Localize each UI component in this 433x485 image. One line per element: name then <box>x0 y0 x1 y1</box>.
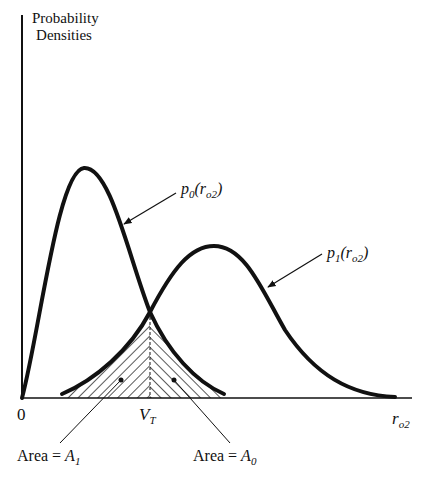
area-a0-sub: 0 <box>251 455 257 467</box>
origin-label: 0 <box>17 406 26 423</box>
p0-arg-close: ) <box>217 180 222 197</box>
p0-arrow <box>124 193 176 224</box>
x-axis-label: ro2 <box>392 410 410 427</box>
y-axis-label-line1: Probability <box>32 10 96 27</box>
p0-label: p0(ro2) <box>181 180 222 197</box>
vt-main: V <box>139 405 149 424</box>
vt-label: VT <box>139 406 156 423</box>
area-a1-label: Area = A1 <box>17 447 80 464</box>
area-a0-hatch <box>150 312 224 398</box>
p1-main: p <box>327 244 335 261</box>
y-axis-label-line2: Densities <box>32 27 96 44</box>
p1-arg-sub: o2 <box>352 252 363 264</box>
area-a1-sub: 1 <box>75 455 81 467</box>
p0-arg-sub: o2 <box>206 188 217 200</box>
p1-label: p1(ro2) <box>327 244 368 261</box>
area-a1-var: A <box>65 447 75 464</box>
p0-main: p <box>181 180 189 197</box>
vt-sub: T <box>149 414 155 426</box>
area-a1-prefix: Area = <box>17 447 65 464</box>
y-axis-label: Probability Densities <box>32 10 96 44</box>
p1-arg-close: ) <box>363 244 368 261</box>
diagram-canvas <box>0 0 433 485</box>
area-a0-prefix: Area = <box>193 447 241 464</box>
area-a0-var: A <box>241 447 251 464</box>
p1-arrow <box>268 254 322 287</box>
x-sub: o2 <box>399 418 410 430</box>
area-a1-hatch <box>62 312 150 398</box>
area-a0-label: Area = A0 <box>193 447 256 464</box>
p1-arg: (r <box>341 244 353 261</box>
p0-arg: (r <box>195 180 207 197</box>
x-main: r <box>392 409 399 428</box>
